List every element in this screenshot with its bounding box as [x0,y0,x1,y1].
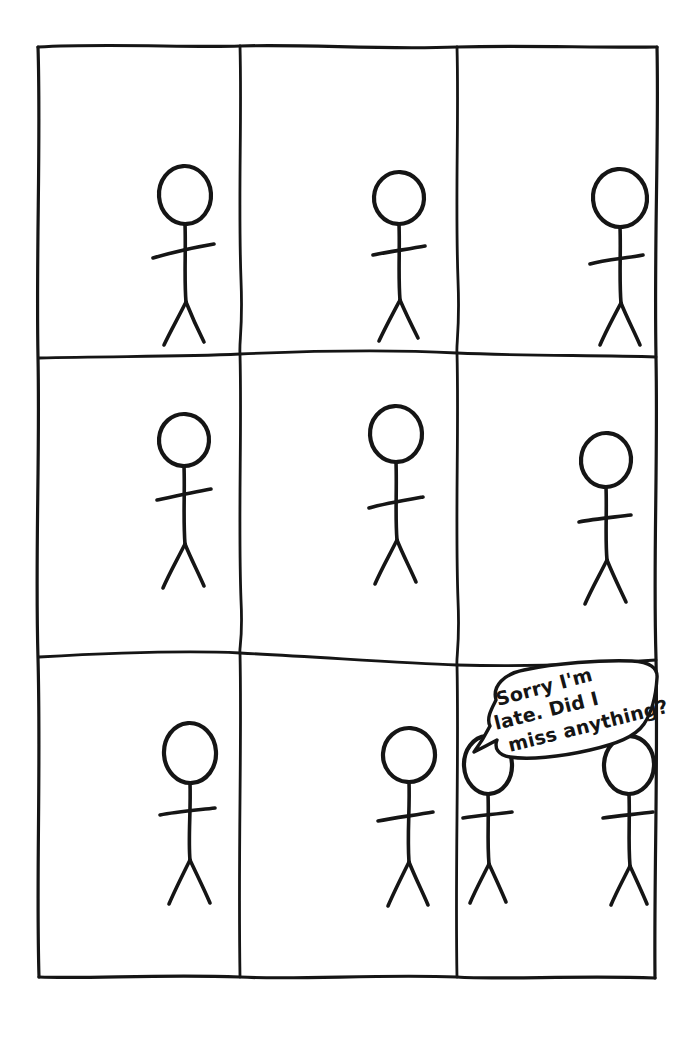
comic-page: Sorry I'm late. Did I miss anything? [0,0,697,1042]
frame-right-edge [655,47,658,978]
stick-figure-head [162,721,218,784]
stick-figure-head [157,412,211,467]
stick-figure-arms [590,255,643,264]
stick-figure-head [369,405,424,464]
stick-figure-right-leg [190,860,210,903]
stick-figure-left-leg [600,303,621,345]
comic-frame [37,45,657,978]
grid-dividers [39,46,656,977]
frame-top-edge [38,45,657,47]
panel-6-figure-group [579,431,634,604]
stick-figure-left-leg [164,302,186,345]
stick-figure-left-leg [375,540,397,584]
stick-figure-right-leg [397,540,416,582]
stick-figure-right-leg [607,560,626,602]
stick-figure-listener-left-leg [611,866,630,905]
stick-figure-right-leg [186,302,204,342]
panel-1-figure-group [153,164,214,345]
stick-figure-left-leg [163,544,185,588]
stick-figure-head [591,167,650,229]
panel-9-figure-listener-group [603,735,656,905]
vertical-divider-1 [239,46,241,977]
stick-figure-left-leg [388,862,409,906]
panel-9-figure-speaker-group [463,735,514,903]
stick-figure-head [157,164,213,225]
stick-figure-head [373,171,426,226]
stick-figure-left-leg [379,300,400,341]
panel-2-figure-group [373,171,426,341]
panel-3-figure-group [590,167,649,345]
stick-figure-right-leg [409,862,428,905]
stick-figure-arms [378,812,433,821]
stick-figure-torso [408,782,409,862]
stick-figure-speaker-left-leg [470,864,489,903]
stick-figure-right-leg [400,300,418,338]
stick-figure-torso [189,783,190,860]
stick-figure-right-leg [185,544,204,586]
horizontal-divider-1 [39,351,656,358]
frame-left-edge [37,47,39,977]
stick-figure-head [579,431,634,489]
panel-7-figure-group [160,721,218,904]
panel-8-figure-group [378,726,437,906]
panel-4-figure-group [157,412,211,588]
stick-figure-speaker-right-leg [489,864,506,902]
comic-drawing: Sorry I'm late. Did I miss anything? [0,0,697,1042]
stick-figure-torso [184,466,185,544]
stick-figure-left-leg [585,560,607,604]
stick-figure-head [381,726,437,783]
stick-figure-left-leg [169,860,190,904]
stick-figure-listener-torso [629,794,630,866]
stick-figure-torso [620,227,621,303]
stick-figure-listener-right-leg [630,866,647,904]
vertical-divider-2 [456,47,458,977]
stick-figure-speaker-torso [488,794,489,864]
stick-figure-torso [185,224,186,302]
stick-figure-arms [160,808,215,815]
stick-figure-torso [399,224,400,300]
frame-bottom-edge [39,976,655,978]
panel-5-figure-group [369,405,424,584]
stick-figure-torso [606,487,607,560]
stick-figure-right-leg [621,303,640,345]
